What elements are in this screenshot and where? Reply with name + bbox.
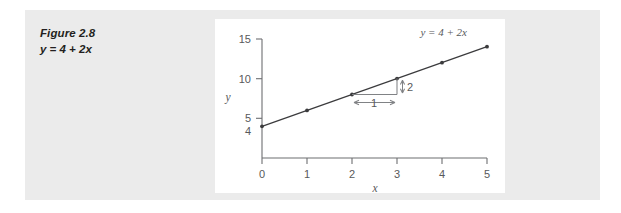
line-chart: 15 10 5 4 0 1 2 3 4 5 y x xyxy=(215,19,505,193)
x-tick-label-1: 1 xyxy=(304,168,310,180)
figure-page: Figure 2.8 y = 4 + 2x 15 10 5 4 xyxy=(0,0,621,213)
x-axis-label: x xyxy=(371,182,378,193)
run-label: 1 xyxy=(371,97,377,109)
data-point-4 xyxy=(440,61,444,65)
data-point-5 xyxy=(485,45,489,49)
figure-caption: Figure 2.8 y = 4 + 2x xyxy=(40,26,190,57)
y-tick-label-15: 15 xyxy=(239,33,251,45)
data-point-0 xyxy=(260,124,264,128)
x-tick-label-4: 4 xyxy=(439,168,445,180)
rise-label: 2 xyxy=(407,81,413,93)
plot-panel: 15 10 5 4 0 1 2 3 4 5 y x xyxy=(215,19,505,193)
y-tick-label-5: 5 xyxy=(245,112,251,124)
x-tick-label-5: 5 xyxy=(484,168,490,180)
y-tick-label-10: 10 xyxy=(239,73,251,85)
y-axis-label: y xyxy=(224,91,231,104)
equation-label: y = 4 + 2x xyxy=(419,26,467,38)
rise-dimension-arrow xyxy=(400,80,404,93)
data-series-line xyxy=(262,47,487,127)
data-point-1 xyxy=(305,109,309,113)
figure-caption-title: Figure 2.8 xyxy=(40,26,190,41)
x-tick-label-0: 0 xyxy=(259,168,265,180)
x-tick-label-3: 3 xyxy=(394,168,400,180)
figure-caption-equation: y = 4 + 2x xyxy=(40,41,190,57)
y-tick-label-4: 4 xyxy=(245,125,251,137)
x-tick-label-2: 2 xyxy=(349,168,355,180)
